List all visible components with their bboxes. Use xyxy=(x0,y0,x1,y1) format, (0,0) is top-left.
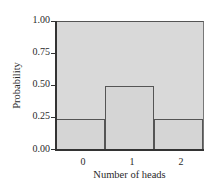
ytick-label: 0.75 xyxy=(20,46,50,57)
xtick-label: 0 xyxy=(73,156,93,167)
x-axis-label: Number of heads xyxy=(56,169,203,180)
ytick-label: 0.25 xyxy=(20,110,50,121)
ytick-mark xyxy=(51,149,56,150)
bar-2-heads xyxy=(154,119,203,151)
ytick-mark xyxy=(51,53,56,54)
ytick-mark xyxy=(51,21,56,22)
ytick-mark xyxy=(51,85,56,86)
xtick-label: 1 xyxy=(122,156,142,167)
ytick-mark xyxy=(51,117,56,118)
bar-1-head xyxy=(105,86,154,151)
ytick-label: 1.00 xyxy=(20,14,50,25)
y-axis xyxy=(55,21,57,151)
bar-0-heads xyxy=(56,119,105,151)
ytick-label: 0.50 xyxy=(20,78,50,89)
plot-area xyxy=(56,21,204,151)
x-axis xyxy=(55,149,204,151)
y-axis-label: Probability xyxy=(11,56,22,116)
ytick-label: 0.00 xyxy=(20,143,50,154)
xtick-label: 2 xyxy=(171,156,191,167)
